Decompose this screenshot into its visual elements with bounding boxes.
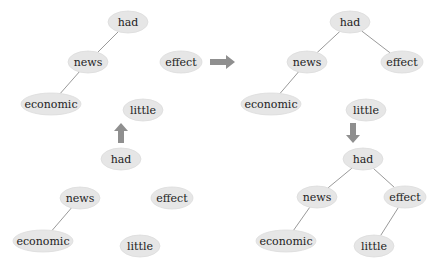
node-label: effect: [386, 56, 418, 69]
node-had: had: [108, 11, 148, 33]
node-had: had: [330, 11, 370, 33]
edge-news-economic: [294, 207, 310, 230]
node-effect: effect: [381, 51, 423, 73]
node-little: little: [354, 235, 394, 257]
node-label: little: [361, 240, 387, 253]
panel-top-right-nodes: hadnewseconomiceffectlittle: [241, 11, 423, 121]
dependency-tree-diagram: hadnewseconomiceffectlittlehadnewseconom…: [0, 0, 437, 266]
node-label: had: [340, 16, 361, 29]
node-label: economic: [16, 235, 69, 248]
node-label: had: [118, 16, 139, 29]
node-news: news: [60, 187, 100, 209]
node-label: little: [130, 104, 156, 117]
node-effect: effect: [160, 51, 202, 73]
node-news: news: [297, 186, 337, 208]
panel-bottom-left-nodes: hadnewseconomiceffectlittle: [13, 148, 193, 257]
arrow-right-icon: [210, 55, 235, 69]
node-economic: economic: [241, 93, 301, 115]
nodes-layer: hadnewseconomiceffectlittlehadnewseconom…: [13, 11, 426, 257]
arrow-down-icon: [346, 123, 360, 143]
node-had: had: [101, 148, 141, 170]
edge-had-news: [317, 31, 340, 52]
node-label: little: [127, 240, 153, 253]
node-economic: economic: [21, 93, 81, 115]
node-label: little: [353, 104, 379, 117]
node-label: news: [303, 191, 332, 204]
node-economic: economic: [256, 230, 316, 252]
panel-bottom-right-nodes: hadnewseconomiceffectlittle: [256, 148, 426, 257]
arrow-up-icon: [114, 123, 128, 143]
node-label: economic: [244, 98, 297, 111]
node-little: little: [346, 99, 386, 121]
node-economic: economic: [13, 230, 73, 252]
edge-news-economic: [280, 72, 298, 94]
node-effect: effect: [151, 187, 193, 209]
edge-had-effect: [373, 168, 394, 187]
edge-had-news: [328, 168, 352, 188]
node-label: economic: [259, 235, 312, 248]
edge-had-news: [98, 32, 119, 53]
node-label: news: [293, 56, 322, 69]
edge-news-economic: [52, 208, 71, 231]
node-news: news: [287, 51, 327, 73]
node-had: had: [343, 148, 383, 170]
node-label: effect: [165, 56, 197, 69]
node-label: effect: [389, 191, 421, 204]
panel-bottom-left: [52, 208, 71, 231]
node-label: news: [66, 192, 95, 205]
edge-effect-little: [381, 207, 399, 235]
node-little: little: [120, 235, 160, 257]
node-news: news: [68, 51, 108, 73]
node-label: effect: [156, 192, 188, 205]
node-label: economic: [24, 98, 77, 111]
edge-news-economic: [60, 72, 79, 94]
edge-had-effect: [362, 31, 391, 53]
node-label: had: [111, 153, 132, 166]
node-little: little: [123, 99, 163, 121]
node-effect: effect: [384, 186, 426, 208]
node-label: news: [74, 56, 103, 69]
node-label: had: [353, 153, 374, 166]
panel-top-left-nodes: hadnewseconomiceffectlittle: [21, 11, 202, 121]
